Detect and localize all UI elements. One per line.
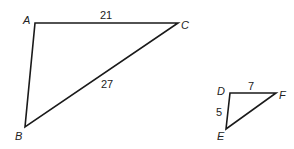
side-label-de: 5 xyxy=(216,106,222,118)
triangle-def xyxy=(226,93,276,129)
vertex-label-c: C xyxy=(181,19,189,31)
vertex-label-d: D xyxy=(217,85,225,97)
triangle-abc xyxy=(25,23,178,127)
side-label-ac: 21 xyxy=(100,9,112,21)
side-label-df: 7 xyxy=(248,80,254,92)
vertex-label-a: A xyxy=(22,14,30,26)
vertex-label-e: E xyxy=(217,130,225,142)
vertex-label-f: F xyxy=(279,89,287,101)
similar-triangles-diagram: A C B 21 27 D F E 7 5 xyxy=(0,0,294,149)
vertex-label-b: B xyxy=(15,130,22,142)
side-label-bc: 27 xyxy=(101,78,113,90)
